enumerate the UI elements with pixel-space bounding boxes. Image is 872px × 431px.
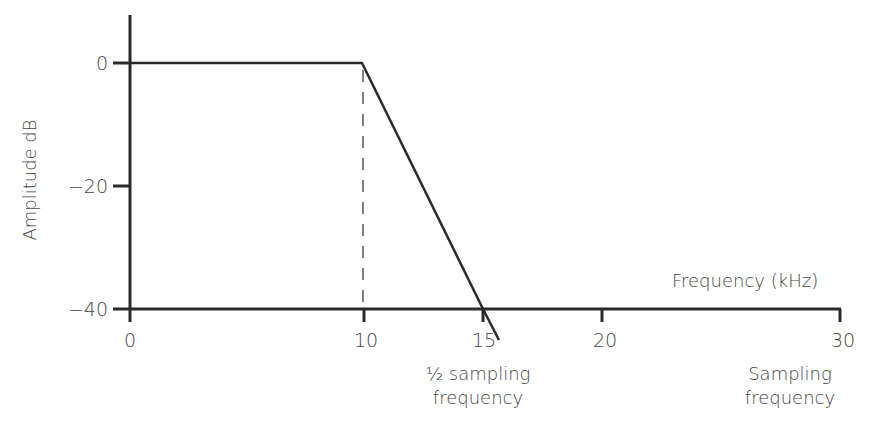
y-tick-label-minus20: −20 — [48, 176, 108, 197]
half-sampling-annotation: ½ sampling frequency — [408, 362, 548, 410]
sampling-line1: Sampling — [735, 362, 845, 386]
half-sampling-line2: frequency — [408, 386, 548, 410]
filter-response-line — [130, 63, 499, 340]
x-tick-label-30: 30 — [831, 330, 855, 351]
y-axis-label: Amplitude dB — [20, 119, 40, 240]
x-tick-label-10: 10 — [354, 330, 378, 351]
y-tick-label-minus40: −40 — [48, 299, 108, 320]
x-axis-label: Frequency (kHz) — [672, 271, 818, 291]
sampling-annotation: Sampling frequency — [735, 362, 845, 410]
half-sampling-line1: ½ sampling — [408, 362, 548, 386]
x-tick-label-20: 20 — [593, 330, 617, 351]
y-tick-label-0: 0 — [48, 53, 108, 74]
sampling-line2: frequency — [735, 386, 845, 410]
x-tick-label-0: 0 — [124, 330, 136, 351]
x-tick-label-15: 15 — [472, 330, 496, 351]
